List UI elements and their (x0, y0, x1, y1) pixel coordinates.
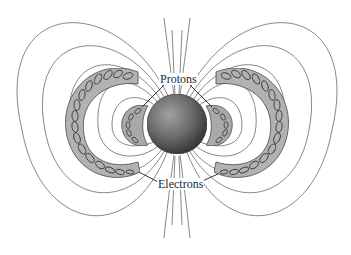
planet-sphere (147, 94, 207, 154)
radiation-belt-diagram: Protons Electrons (0, 0, 351, 255)
electrons-label: Electrons (157, 178, 204, 190)
protons-label: Protons (159, 73, 198, 85)
inner-belt-right (206, 105, 232, 145)
inner-belt-left (122, 105, 148, 145)
diagram-canvas (0, 0, 351, 255)
